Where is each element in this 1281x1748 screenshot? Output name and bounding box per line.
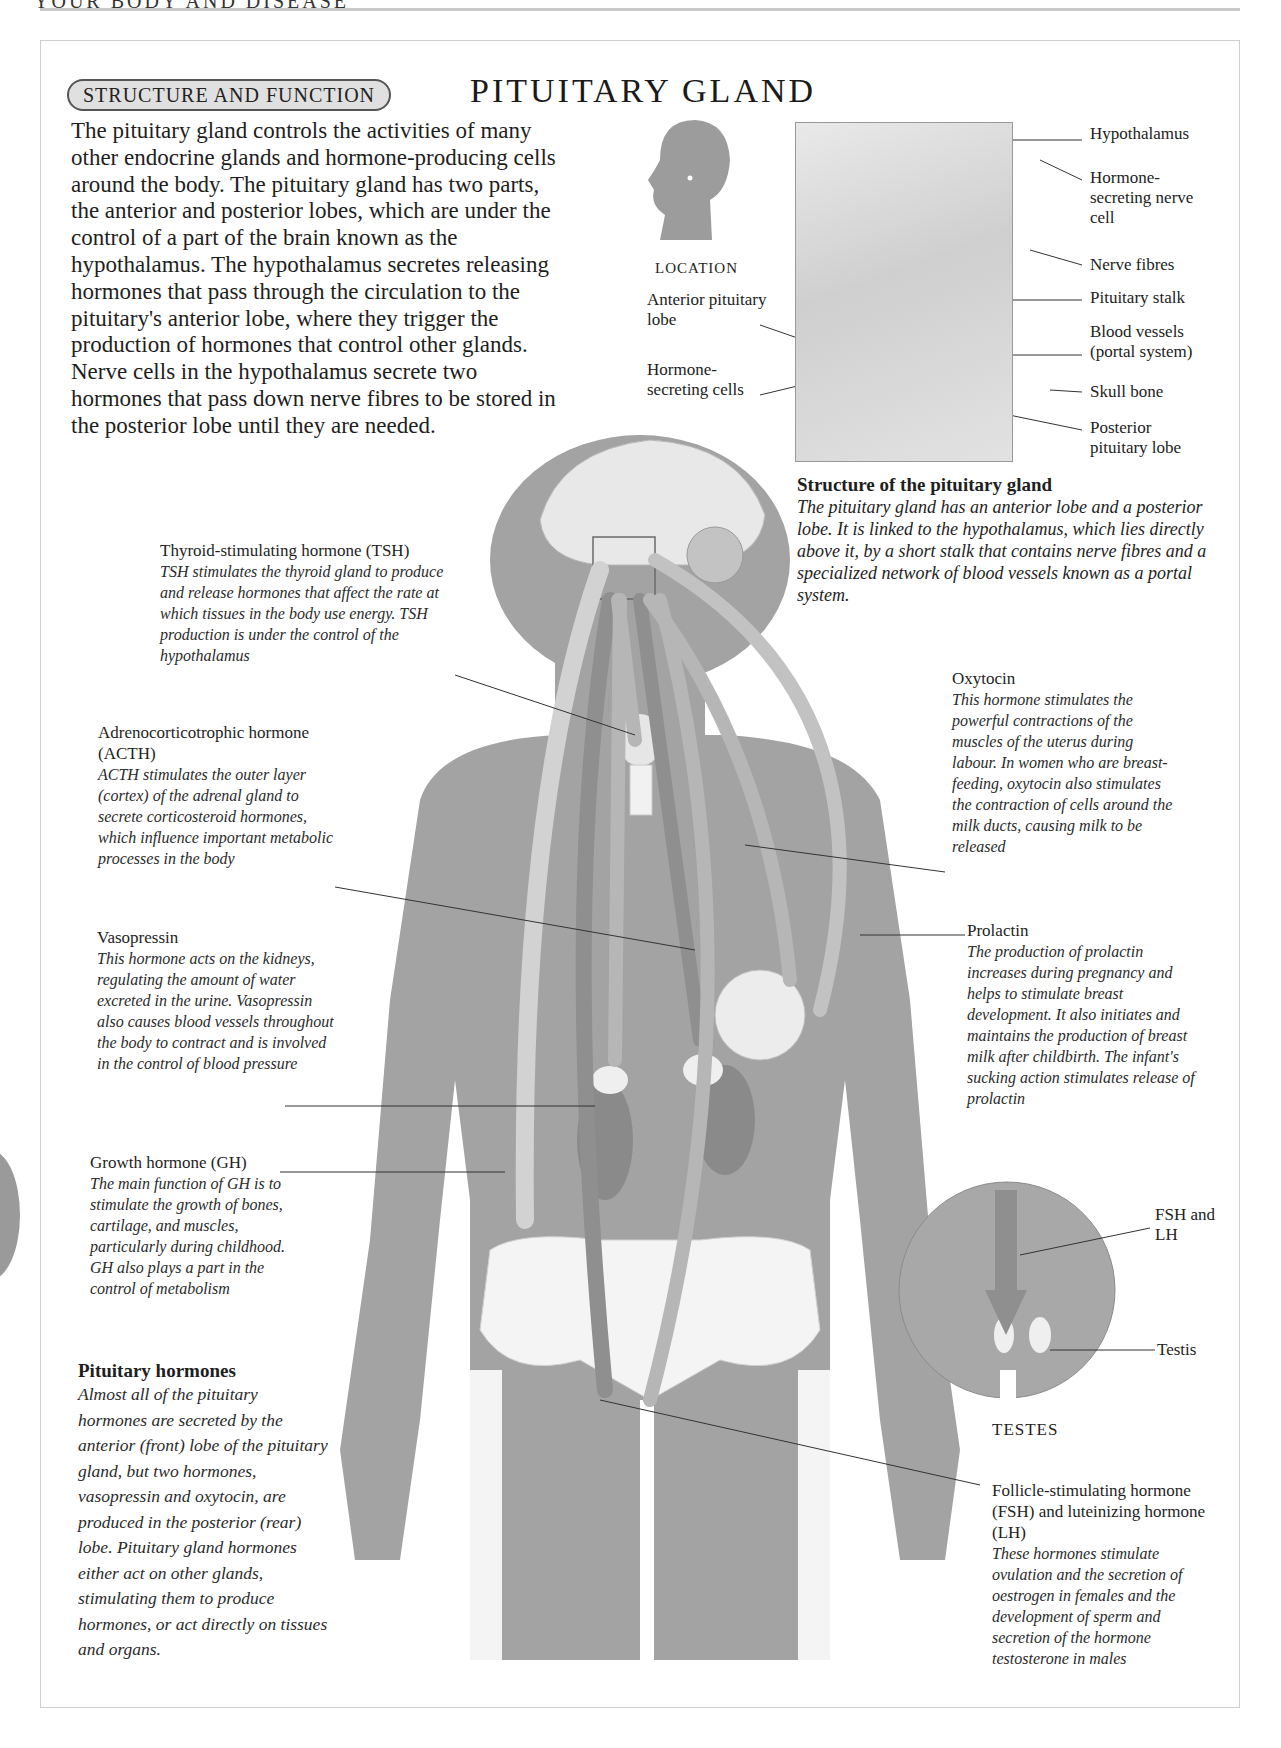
label-hormone-secreting-cells: Hormone-secreting cells [647,360,767,400]
label-fsh-and-lh: FSH and LH [1155,1205,1215,1245]
structure-caption-title: Structure of the pituitary gland [797,474,1207,496]
label-nerve-fibres: Nerve fibres [1090,255,1175,275]
page-title: PITUITARY GLAND [470,72,816,110]
section-tag: STRUCTURE AND FUNCTION [67,79,391,111]
acth-body: ACTH stimulates the outer layer (cortex)… [98,764,343,869]
annotation-acth: Adrenocorticotrophic hormone (ACTH) ACTH… [98,722,343,869]
label-blood-vessels: Blood vessels (portal system) [1090,322,1215,362]
oxytocin-body: This hormone stimulates the powerful con… [952,689,1177,857]
label-anterior-lobe: Anterior pituitary lobe [647,290,787,330]
intro-paragraph: The pituitary gland controls the activit… [71,118,561,440]
gh-body: The main function of GH is to stimulate … [90,1173,310,1299]
structure-caption: Structure of the pituitary gland The pit… [797,474,1207,606]
vasopressin-body: This hormone acts on the kidneys, regula… [97,948,337,1074]
fsh-lh-body: These hormones stimulate ovulation and t… [992,1543,1222,1669]
label-posterior-lobe: Posterior pituitary lobe [1090,418,1210,458]
pituitary-structure-diagram [795,122,1013,462]
oxytocin-title: Oxytocin [952,668,1177,689]
annotation-prolactin: Prolactin The production of prolactin in… [967,920,1202,1109]
structure-caption-body: The pituitary gland has an anterior lobe… [797,496,1207,606]
femur-right [798,1370,830,1660]
leg-gap [640,1400,654,1660]
annotation-fsh-lh: Follicle-stimulating hormone (FSH) and l… [992,1480,1222,1669]
annotation-gh: Growth hormone (GH) The main function of… [90,1152,310,1299]
testes-inset [899,1182,1155,1400]
prolactin-body: The production of prolactin increases du… [967,941,1202,1109]
label-hormone-secreting-nerve-cell: Hormone-secreting nerve cell [1090,168,1200,228]
annotation-tsh: Thyroid-stimulating hormone (TSH) TSH st… [160,540,460,666]
label-hypothalamus: Hypothalamus [1090,124,1189,144]
annotation-oxytocin: Oxytocin This hormone stimulates the pow… [952,668,1177,857]
trachea [630,765,652,815]
tsh-body: TSH stimulates the thyroid gland to prod… [160,561,460,666]
annotation-vasopressin: Vasopressin This hormone acts on the kid… [97,927,337,1074]
tsh-title: Thyroid-stimulating hormone (TSH) [160,540,460,561]
location-title: LOCATION [655,260,738,277]
testes-title: TESTES [992,1420,1058,1440]
label-skull-bone: Skull bone [1090,382,1163,402]
label-pituitary-stalk: Pituitary stalk [1090,288,1185,308]
vasopressin-title: Vasopressin [97,927,337,948]
adrenal-left [592,1066,628,1094]
femur-left [470,1370,502,1660]
gh-title: Growth hormone (GH) [90,1152,310,1173]
summary-title: Pituitary hormones [78,1360,328,1382]
label-testis: Testis [1157,1340,1196,1360]
acth-title: Adrenocorticotrophic hormone (ACTH) [98,722,343,764]
cerebellum [687,527,743,583]
summary-box: Pituitary hormones Almost all of the pit… [78,1360,328,1663]
prolactin-title: Prolactin [967,920,1202,941]
fsh-lh-title: Follicle-stimulating hormone (FSH) and l… [992,1480,1222,1543]
summary-body: Almost all of the pituitary hormones are… [78,1382,328,1663]
location-head-icon [648,120,730,240]
